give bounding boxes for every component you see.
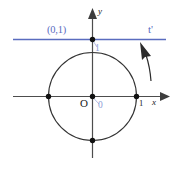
label-y-unit: 1	[95, 44, 100, 54]
label-origin: O	[80, 98, 88, 109]
y-axis	[88, 8, 97, 158]
label-y-axis: y	[98, 7, 102, 16]
label-x-axis: x	[152, 98, 156, 107]
point-top	[90, 37, 95, 42]
direction-arrow-icon	[140, 42, 151, 81]
label-x-unit: 1	[139, 99, 143, 108]
label-point-0-1: (0,1)	[47, 25, 66, 36]
point-bottom	[90, 138, 95, 143]
point-left	[46, 94, 51, 99]
unit-circle-figure: (0,1) t' 1 O 0 1 x y	[0, 0, 174, 176]
label-zero: 0	[98, 101, 103, 111]
label-tangent-line: t'	[148, 24, 153, 35]
point-origin	[90, 94, 95, 99]
